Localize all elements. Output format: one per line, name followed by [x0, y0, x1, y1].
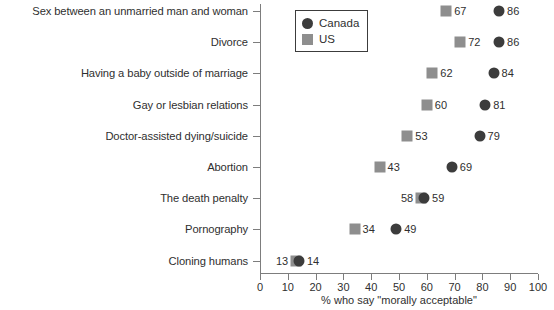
- x-axis-tick-label: 50: [393, 281, 405, 293]
- legend-item-us[interactable]: US: [302, 31, 359, 47]
- category-label: Cloning humans: [169, 255, 248, 267]
- x-axis-tick-label: 30: [337, 281, 349, 293]
- circle-marker-icon: [302, 18, 313, 29]
- y-axis-tick: [253, 11, 260, 12]
- category-axis-labels: Sex between an unmarried man and womanDi…: [0, 0, 248, 272]
- x-axis-tick-label: 70: [448, 281, 460, 293]
- data-label-us: 43: [388, 161, 400, 173]
- data-label-us: 72: [468, 36, 480, 48]
- data-label-us: 34: [363, 223, 375, 235]
- data-label-us: 62: [440, 67, 452, 79]
- data-point-canada: [494, 6, 505, 17]
- y-axis-tick: [253, 198, 260, 199]
- data-point-us: [441, 6, 452, 17]
- x-axis-tick: [316, 274, 317, 280]
- category-label: Doctor-assisted dying/suicide: [105, 130, 248, 142]
- data-point-canada: [293, 255, 304, 266]
- data-label-canada: 69: [460, 161, 472, 173]
- x-axis-tick: [260, 274, 261, 280]
- x-axis-tick-label: 100: [529, 281, 547, 293]
- y-axis-tick: [253, 136, 260, 137]
- x-axis-tick-label: 60: [421, 281, 433, 293]
- x-axis-tick: [538, 274, 539, 280]
- y-axis-tick: [253, 261, 260, 262]
- x-axis-tick: [510, 274, 511, 280]
- x-axis-tick: [399, 274, 400, 280]
- category-label: Gay or lesbian relations: [133, 99, 248, 111]
- data-label-canada: 84: [502, 67, 514, 79]
- x-axis-tick-label: 20: [309, 281, 321, 293]
- data-point-us: [421, 99, 432, 110]
- data-label-us: 58: [401, 192, 413, 204]
- category-label: Having a baby outside of marriage: [81, 67, 248, 79]
- y-axis-tick: [253, 167, 260, 168]
- data-point-us: [402, 130, 413, 141]
- y-axis-tick: [253, 105, 260, 106]
- x-axis-title: % who say "morally acceptable": [260, 294, 538, 306]
- x-axis-tick-label: 0: [257, 281, 263, 293]
- data-point-canada: [488, 68, 499, 79]
- data-point-us: [349, 224, 360, 235]
- data-label-canada: 49: [404, 223, 416, 235]
- data-point-canada: [480, 99, 491, 110]
- data-point-canada: [446, 162, 457, 173]
- data-label-us: 60: [435, 99, 447, 111]
- x-axis-tick-label: 80: [476, 281, 488, 293]
- data-label-us: 53: [415, 130, 427, 142]
- category-label: The death penalty: [160, 192, 248, 204]
- x-axis-tick-label: 10: [282, 281, 294, 293]
- x-axis-tick: [288, 274, 289, 280]
- category-label: Divorce: [211, 36, 248, 48]
- square-marker-icon: [302, 34, 313, 45]
- data-point-canada: [391, 224, 402, 235]
- y-axis-tick: [253, 73, 260, 74]
- x-axis-tick: [427, 274, 428, 280]
- x-axis-tick: [371, 274, 372, 280]
- data-label-canada: 81: [493, 99, 505, 111]
- data-label-us: 13: [276, 255, 288, 267]
- legend-label: Canada: [319, 17, 359, 29]
- chart-legend: CanadaUS: [295, 10, 368, 52]
- data-point-us: [455, 37, 466, 48]
- data-label-canada: 86: [507, 5, 519, 17]
- data-label-canada: 14: [307, 255, 319, 267]
- x-axis-tick: [482, 274, 483, 280]
- y-axis-tick: [253, 42, 260, 43]
- data-label-us: 67: [454, 5, 466, 17]
- data-point-us: [374, 162, 385, 173]
- data-label-canada: 59: [432, 192, 444, 204]
- category-label: Sex between an unmarried man and woman: [32, 5, 248, 17]
- x-axis-tick: [455, 274, 456, 280]
- category-label: Pornography: [185, 223, 248, 235]
- legend-label: US: [319, 33, 335, 45]
- data-label-canada: 86: [507, 36, 519, 48]
- data-point-canada: [494, 37, 505, 48]
- x-axis-tick: [343, 274, 344, 280]
- data-label-canada: 79: [488, 130, 500, 142]
- legend-item-canada[interactable]: Canada: [302, 15, 359, 31]
- data-point-us: [427, 68, 438, 79]
- data-point-canada: [419, 193, 430, 204]
- y-axis-tick: [253, 229, 260, 230]
- x-axis-tick-label: 90: [504, 281, 516, 293]
- data-point-canada: [474, 130, 485, 141]
- category-label: Abortion: [207, 161, 248, 173]
- x-axis-tick-label: 40: [365, 281, 377, 293]
- dot-plot-chart: Sex between an unmarried man and womanDi…: [0, 0, 554, 310]
